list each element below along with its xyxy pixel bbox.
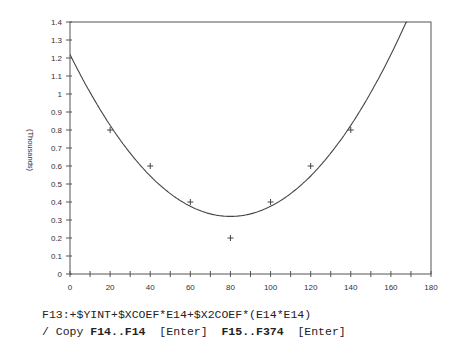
enter-key-2: [Enter] bbox=[297, 325, 345, 338]
data-point-marker bbox=[308, 163, 314, 169]
y-tick-label: 1.4 bbox=[51, 18, 63, 27]
x-tick-label: 140 bbox=[344, 283, 358, 292]
y-tick-label: 0.5 bbox=[51, 180, 63, 189]
y-tick-label: 0.7 bbox=[51, 144, 63, 153]
x-tick-label: 100 bbox=[264, 283, 278, 292]
y-tick-label: 0.1 bbox=[51, 252, 63, 261]
y-tick-label: 0.8 bbox=[51, 126, 63, 135]
copy-command-line: / Copy F14..F14 [Enter] F15..F374 [Enter… bbox=[42, 325, 346, 338]
x-tick-label: 20 bbox=[106, 283, 115, 292]
y-tick-label: 0.2 bbox=[51, 234, 63, 243]
y-tick-label: 0.4 bbox=[51, 198, 63, 207]
data-point-marker bbox=[227, 235, 233, 241]
data-point-marker bbox=[268, 199, 274, 205]
fit-curve bbox=[70, 22, 407, 216]
enter-key-1: [Enter] bbox=[159, 325, 207, 338]
formula-line: F13:+$YINT+$XCOEF*E14+$X2COEF*(E14*E14) bbox=[42, 308, 311, 321]
y-tick-label: 1 bbox=[58, 90, 63, 99]
y-tick-label: 0.3 bbox=[51, 216, 63, 225]
x-tick-label: 180 bbox=[424, 283, 438, 292]
plot-frame bbox=[70, 22, 431, 274]
x-tick-label: 160 bbox=[384, 283, 398, 292]
y-tick-label: 0.6 bbox=[51, 162, 63, 171]
x-tick-label: 120 bbox=[304, 283, 318, 292]
copy-prefix: / Copy bbox=[42, 325, 90, 338]
y-axis-label: (Thousands) bbox=[26, 129, 35, 172]
y-tick-label: 1.3 bbox=[51, 36, 63, 45]
formula-text: F13:+$YINT+$XCOEF*E14+$X2COEF*(E14*E14) bbox=[42, 308, 311, 321]
y-tick-label: 0 bbox=[58, 270, 63, 279]
x-tick-label: 0 bbox=[68, 283, 73, 292]
x-tick-label: 40 bbox=[146, 283, 155, 292]
y-tick-label: 1.1 bbox=[51, 72, 63, 81]
copy-from-range: F14..F14 bbox=[90, 325, 145, 338]
x-tick-label: 60 bbox=[186, 283, 195, 292]
data-point-marker bbox=[187, 199, 193, 205]
copy-to-range: F15..F374 bbox=[221, 325, 283, 338]
x-tick-label: 80 bbox=[226, 283, 235, 292]
y-tick-label: 0.9 bbox=[51, 108, 63, 117]
chart: 00.10.20.30.40.50.60.70.80.911.11.21.31.… bbox=[0, 0, 453, 300]
data-point-marker bbox=[147, 163, 153, 169]
y-tick-label: 1.2 bbox=[51, 54, 63, 63]
